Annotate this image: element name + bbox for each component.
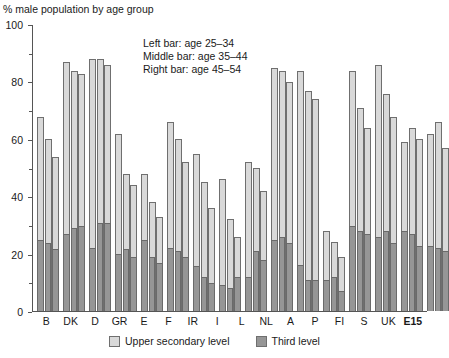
bar [234, 237, 241, 311]
bar-group [89, 25, 111, 311]
bar-group [63, 25, 85, 311]
bar-segment-third-level [271, 240, 278, 311]
bar-segment-third-level [45, 243, 52, 311]
bar-segment-third-level [390, 243, 397, 311]
bar-segment-third-level [89, 248, 96, 311]
bar [260, 191, 267, 311]
bar-segment-third-level [357, 231, 364, 311]
bar-group [323, 25, 345, 311]
x-axis-label-s: S [354, 313, 374, 331]
bar [123, 174, 130, 311]
bar-segment-third-level [52, 249, 59, 312]
bar-segment-third-level [331, 277, 338, 311]
bar [227, 219, 234, 311]
bar-segment-third-level [279, 237, 286, 311]
bar [279, 71, 286, 311]
bar [219, 179, 226, 311]
bar-segment-third-level [104, 223, 111, 311]
bar-segment-third-level [323, 280, 330, 311]
bar-segment-third-level [219, 285, 226, 311]
bar-segment-third-level [149, 257, 156, 311]
bar-segment-third-level [409, 234, 416, 311]
bar-segment-third-level [427, 246, 434, 311]
x-axis-label-f: F [158, 313, 178, 331]
bar-segment-third-level [312, 280, 319, 311]
bar [305, 91, 312, 311]
bar-segment-third-level [182, 257, 189, 311]
bar [357, 108, 364, 311]
bar [78, 74, 85, 311]
x-axis-label-l: L [232, 313, 252, 331]
y-tick-mark [28, 255, 33, 256]
bar-group [115, 25, 137, 311]
x-axis-label-e15: E15 [403, 313, 423, 331]
bar-segment-third-level [115, 254, 122, 311]
y-tick-label: 40 [0, 191, 23, 203]
bar-segment-third-level [442, 251, 449, 311]
x-axis-label-d: D [85, 313, 105, 331]
bar [312, 99, 319, 311]
bar [208, 208, 215, 311]
bar [383, 94, 390, 311]
bar-segment-third-level [349, 226, 356, 311]
bar-group [271, 25, 293, 311]
bar [427, 134, 434, 311]
bar [442, 148, 449, 311]
chart-title: % male population by age group [3, 3, 154, 15]
x-axis-label-a: A [280, 313, 300, 331]
bar [141, 174, 148, 311]
bar-segment-third-level [260, 260, 267, 311]
y-tick-label: 80 [0, 76, 23, 88]
bar-segment-third-level [401, 231, 408, 311]
bar [245, 162, 252, 311]
bar [97, 59, 104, 311]
bar-group [245, 25, 267, 311]
bar [182, 162, 189, 311]
x-axis-label-uk: UK [378, 313, 398, 331]
bar [156, 217, 163, 311]
bar [349, 71, 356, 311]
bar-segment-third-level [71, 228, 78, 311]
bar-segment-third-level [375, 237, 382, 311]
legend-item-third-level: Third level [256, 335, 320, 347]
bar [271, 68, 278, 311]
y-tick-label: 60 [0, 134, 23, 146]
bar-segment-third-level [208, 283, 215, 311]
bar [63, 62, 70, 311]
bar-group [427, 25, 449, 311]
bar [364, 128, 371, 311]
bar-segment-third-level [156, 263, 163, 311]
bar-group [349, 25, 371, 311]
y-tick-mark [28, 25, 33, 26]
x-axis-label-ir: IR [183, 313, 203, 331]
bar [193, 154, 200, 311]
bar [401, 142, 408, 311]
bar-segment-third-level [305, 280, 312, 311]
bar [416, 139, 423, 311]
legend-swatch-upper-secondary-icon [109, 336, 120, 347]
y-tick-label: 100 [0, 19, 23, 31]
x-axis-labels: BDKDGREFIRILNLAPFISUKE15 [32, 313, 426, 331]
bar [409, 128, 416, 311]
bar [52, 157, 59, 311]
bar [149, 202, 156, 311]
y-tick-mark-minor [29, 283, 32, 284]
legend-label-third-level: Third level [272, 335, 320, 347]
y-tick-label: 0 [0, 306, 23, 318]
bar-segment-third-level [167, 248, 174, 311]
bar-segment-third-level [130, 257, 137, 311]
y-tick-mark-minor [29, 169, 32, 170]
x-axis-label-p: P [305, 313, 325, 331]
bar [175, 139, 182, 311]
bar-segment-third-level [123, 249, 130, 311]
bar-segment-third-level [245, 277, 252, 311]
bar-segment-third-level [141, 240, 148, 311]
bar-group [375, 25, 397, 311]
bar [435, 122, 442, 311]
bar [71, 71, 78, 311]
age-group-annotation: Left bar: age 25–34 Middle bar: age 35–4… [143, 37, 248, 77]
x-axis-label-i: I [207, 313, 227, 331]
bar [104, 65, 111, 311]
bar-segment-third-level [416, 246, 423, 311]
